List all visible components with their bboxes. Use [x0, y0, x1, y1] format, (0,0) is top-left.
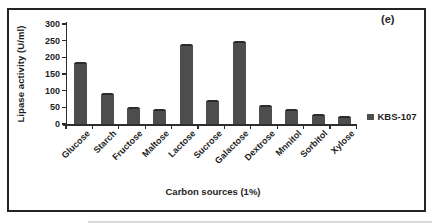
y-axis-title: Lipase activity (U/ml) — [15, 25, 26, 122]
bar-lactose — [180, 44, 193, 124]
panel-label: (e) — [381, 13, 394, 25]
y-axis-tick-label: 50 — [30, 102, 60, 112]
legend-square-marker-icon — [367, 114, 374, 121]
y-axis-tick-mark — [62, 40, 67, 41]
bar-xylose — [338, 116, 351, 124]
x-axis-tick-mark — [224, 125, 225, 130]
x-axis-tick-mark — [92, 125, 93, 130]
y-axis-tick-mark — [62, 107, 67, 108]
y-axis-tick-mark — [62, 23, 67, 24]
legend-series-label: KBS-107 — [378, 112, 417, 122]
bar-sorbitol — [312, 114, 325, 124]
x-axis-tick-mark — [356, 125, 357, 130]
bar-galactose — [233, 41, 246, 124]
x-axis-tick-mark — [118, 125, 119, 130]
bar-sucrose — [206, 100, 219, 124]
x-axis-tick-mark — [145, 125, 146, 130]
x-axis-tick-mark — [277, 125, 278, 130]
x-axis-tick-mark — [250, 125, 251, 130]
y-axis-tick-label: 150 — [30, 69, 60, 79]
y-axis-tick-label: 300 — [30, 19, 60, 29]
bar-maltose — [153, 109, 166, 124]
x-axis-tick-mark — [197, 125, 198, 130]
y-axis-tick-label: 0 — [30, 119, 60, 129]
bar-fructose — [127, 107, 140, 124]
bar-glucose — [74, 62, 87, 124]
x-axis-tick-mark — [329, 125, 330, 130]
y-axis-tick-mark — [62, 57, 67, 58]
bar-starch — [101, 93, 114, 124]
scan-artifact-line — [88, 221, 432, 223]
bar-mnnitol — [285, 109, 298, 124]
x-axis-tick-mark — [171, 125, 172, 130]
figure-panel: 050100150200250300GlucoseStarchFructoseM… — [0, 0, 432, 224]
y-axis-tick-label: 200 — [30, 52, 60, 62]
y-axis-tick-mark — [62, 73, 67, 74]
y-axis-tick-mark — [62, 90, 67, 91]
bar-dextrose — [259, 105, 272, 124]
x-axis-tick-mark — [303, 125, 304, 130]
y-axis-tick-label: 250 — [30, 36, 60, 46]
y-axis-tick-label: 100 — [30, 86, 60, 96]
x-axis-title: Carbon sources (1%) — [113, 186, 313, 197]
x-axis-tick-mark — [65, 125, 66, 130]
legend: KBS-107 — [367, 112, 417, 122]
